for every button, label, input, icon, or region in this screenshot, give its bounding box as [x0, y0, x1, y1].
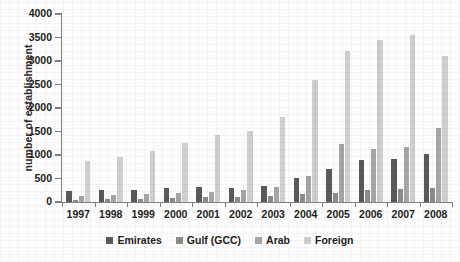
- bar-arab-2004: [306, 176, 311, 202]
- y-tick: [55, 178, 61, 179]
- bar-arab-1998: [111, 195, 116, 202]
- bar-foreign-2005: [345, 51, 350, 202]
- x-tick: [127, 202, 128, 207]
- bar-arab-2003: [274, 187, 279, 202]
- bar-foreign-2000: [182, 143, 187, 202]
- legend-swatch-icon: [304, 237, 311, 244]
- bar-arab-1997: [79, 196, 84, 202]
- y-tick: [55, 107, 61, 108]
- y-tick-label: 500: [8, 172, 52, 184]
- bar-gulf-gcc-2006: [365, 190, 370, 202]
- y-tick: [55, 60, 61, 61]
- x-tick-label: 2008: [416, 208, 456, 220]
- y-tick: [55, 201, 61, 202]
- legend-label: Foreign: [315, 234, 354, 246]
- bar-gulf-gcc-2002: [235, 197, 240, 202]
- y-tick-label: 1000: [8, 148, 52, 160]
- y-tick: [55, 37, 61, 38]
- plot-area: [62, 14, 452, 202]
- bar-arab-2002: [241, 190, 246, 202]
- bar-emirates-2000: [164, 188, 169, 202]
- bar-emirates-2008: [424, 154, 429, 202]
- bar-emirates-2001: [196, 187, 201, 202]
- bar-foreign-2007: [410, 35, 415, 202]
- bar-gulf-gcc-1998: [105, 199, 110, 202]
- y-tick-label: 1500: [8, 125, 52, 137]
- legend-label: Emirates: [117, 234, 161, 246]
- bar-foreign-2003: [280, 117, 285, 202]
- x-tick: [322, 202, 323, 207]
- x-tick: [420, 202, 421, 207]
- bar-arab-2006: [371, 149, 376, 202]
- bar-emirates-2006: [359, 160, 364, 202]
- bar-arab-2000: [176, 193, 181, 202]
- legend-item-gulf-gcc[interactable]: Gulf (GCC): [176, 234, 241, 246]
- x-tick: [192, 202, 193, 207]
- y-tick: [55, 13, 61, 14]
- x-tick: [225, 202, 226, 207]
- y-tick: [55, 154, 61, 155]
- bar-gulf-gcc-1997: [73, 200, 78, 202]
- x-tick: [95, 202, 96, 207]
- bar-gulf-gcc-2001: [203, 197, 208, 202]
- bar-chart: number of establishment 0500100015002000…: [0, 0, 460, 262]
- bar-foreign-2001: [215, 135, 220, 202]
- bar-gulf-gcc-2005: [333, 193, 338, 202]
- legend-swatch-icon: [106, 237, 113, 244]
- bar-arab-2001: [209, 192, 214, 202]
- bar-foreign-2006: [377, 40, 382, 202]
- y-tick-label: 2000: [8, 101, 52, 113]
- legend-swatch-icon: [255, 237, 262, 244]
- x-tick: [452, 202, 453, 207]
- bar-emirates-2005: [326, 169, 331, 202]
- bar-emirates-2003: [261, 186, 266, 202]
- x-tick: [62, 202, 63, 207]
- bar-foreign-1999: [150, 151, 155, 202]
- bar-emirates-2007: [391, 159, 396, 202]
- bar-emirates-1998: [99, 190, 104, 202]
- x-tick: [160, 202, 161, 207]
- bar-gulf-gcc-2003: [268, 196, 273, 202]
- bar-foreign-2008: [442, 56, 447, 202]
- bar-foreign-1997: [85, 161, 90, 202]
- x-tick: [290, 202, 291, 207]
- bar-emirates-1999: [131, 190, 136, 202]
- bar-gulf-gcc-2007: [398, 189, 403, 202]
- y-tick-label: 3000: [8, 54, 52, 66]
- legend-label: Arab: [266, 234, 290, 246]
- y-tick-label: 2500: [8, 78, 52, 90]
- bar-gulf-gcc-2008: [430, 188, 435, 202]
- legend-swatch-icon: [176, 237, 183, 244]
- legend-label: Gulf (GCC): [187, 234, 241, 246]
- x-tick: [387, 202, 388, 207]
- legend-item-foreign[interactable]: Foreign: [304, 234, 354, 246]
- bar-foreign-1998: [117, 157, 122, 202]
- bar-gulf-gcc-2000: [170, 198, 175, 202]
- y-tick: [55, 84, 61, 85]
- chart-legend: EmiratesGulf (GCC)ArabForeign: [0, 234, 460, 246]
- bar-gulf-gcc-2004: [300, 194, 305, 202]
- x-tick: [355, 202, 356, 207]
- bar-emirates-2004: [294, 178, 299, 202]
- bar-gulf-gcc-1999: [138, 199, 143, 202]
- y-tick-label: 0: [8, 195, 52, 207]
- bar-emirates-2002: [229, 188, 234, 202]
- y-tick-label: 3500: [8, 31, 52, 43]
- bar-arab-2008: [436, 128, 441, 202]
- bar-foreign-2002: [247, 131, 252, 202]
- legend-item-arab[interactable]: Arab: [255, 234, 290, 246]
- y-tick-label: 4000: [8, 7, 52, 19]
- bar-arab-1999: [144, 194, 149, 202]
- bar-arab-2007: [404, 147, 409, 202]
- bar-foreign-2004: [312, 80, 317, 202]
- legend-item-emirates[interactable]: Emirates: [106, 234, 161, 246]
- bar-emirates-1997: [66, 191, 71, 202]
- bar-arab-2005: [339, 144, 344, 202]
- x-tick: [257, 202, 258, 207]
- y-tick: [55, 131, 61, 132]
